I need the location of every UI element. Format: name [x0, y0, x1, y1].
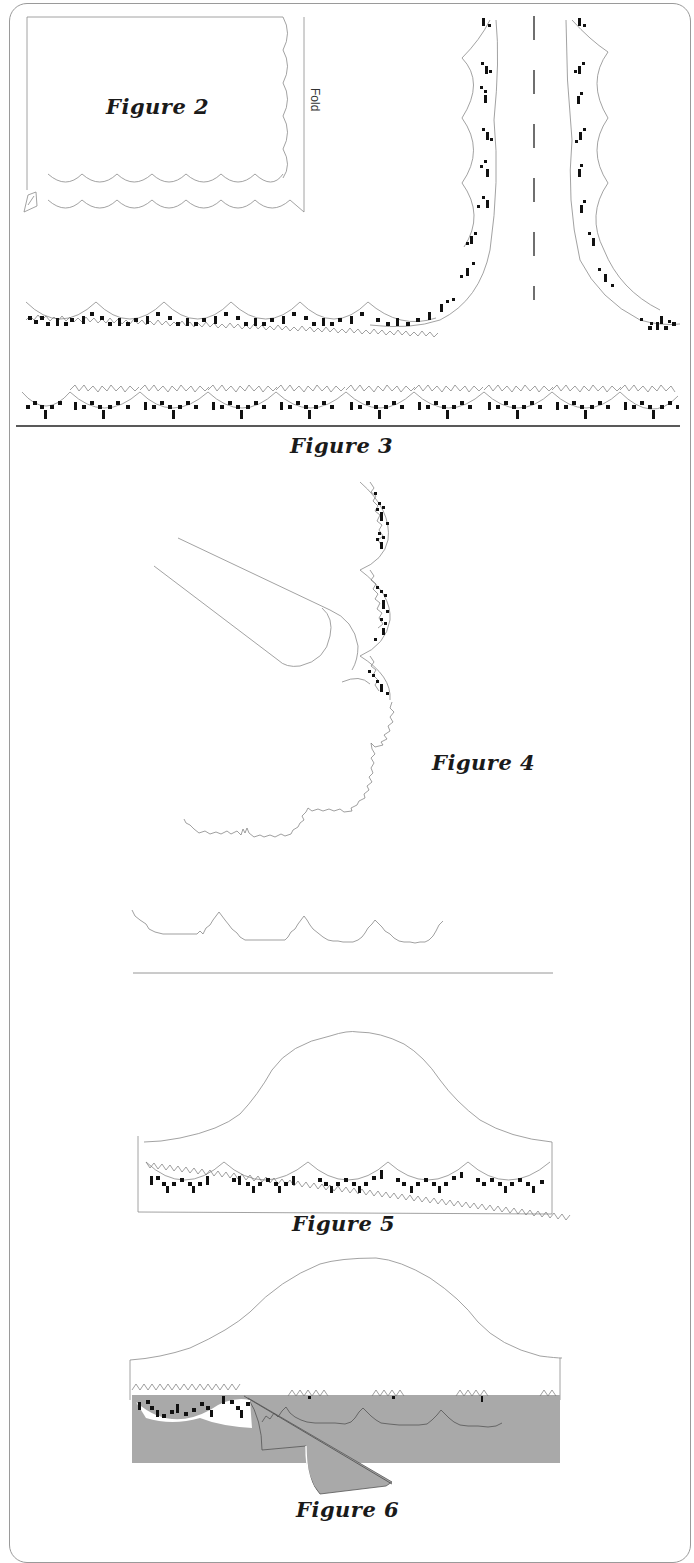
- figure-6-label: Figure 6: [296, 1497, 399, 1522]
- figure-6: Figure 6: [0, 1250, 694, 1530]
- figure-3: Figure 3: [0, 0, 694, 470]
- figure-4-scissors-cutting: [0, 470, 694, 980]
- figure-5-motif: [150, 1170, 544, 1193]
- figure-4-label: Figure 4: [432, 750, 535, 775]
- figure-5-label: Figure 5: [292, 1211, 395, 1236]
- figure-6-fold-back-diagram: [0, 1250, 694, 1530]
- figure-3-label: Figure 3: [290, 433, 393, 458]
- figure-4: Figure 4: [0, 470, 694, 980]
- trim-strip-motif: [26, 401, 679, 419]
- figure-5: Figure 5: [0, 1010, 694, 1250]
- shaded-fabric: [132, 1395, 560, 1463]
- figure-3-corner-trim: [0, 0, 694, 470]
